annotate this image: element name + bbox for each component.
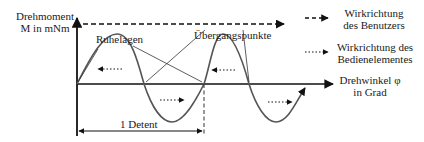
y-axis-label: Drehmoment M in mNm <box>14 10 76 34</box>
torque-curve <box>77 34 305 122</box>
pointer-line <box>78 49 98 82</box>
rest-positions-label: Ruhelagen <box>96 33 143 45</box>
x-axis-label: Drehwinkel φ in Grad <box>335 74 405 98</box>
pointer-line <box>133 46 202 82</box>
legend-user-direction: Wirkrichtung des Benutzers <box>333 7 415 31</box>
legend-device-direction: Wirkrichtung des Bedienelementes <box>331 41 419 65</box>
detent-label: 1 Detent <box>120 118 158 130</box>
transition-points-label: Übergangspunkte <box>194 29 271 41</box>
